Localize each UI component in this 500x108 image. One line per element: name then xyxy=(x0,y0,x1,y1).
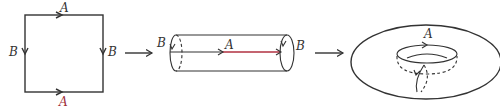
square-top-label: A xyxy=(59,1,69,15)
left-rim-arrow-icon xyxy=(170,44,175,49)
square-right-label: B xyxy=(107,45,117,59)
torus-top-label: A xyxy=(423,27,433,41)
torus-stage: A xyxy=(351,25,500,99)
square-bottom-label: A xyxy=(58,95,68,108)
cylinder-right-label: B xyxy=(295,39,305,53)
square-left-label: B xyxy=(8,45,18,59)
torus-hole-inner-lip xyxy=(407,54,447,58)
square-to-torus-diagram: A A B B B A B xyxy=(0,0,500,108)
cylinder-middle-label: A xyxy=(224,38,234,52)
right-rim-arrow-icon xyxy=(281,41,286,46)
square-stage: A A B B xyxy=(8,1,117,108)
cylinder-left-label: B xyxy=(156,36,166,50)
torus-meridian-front xyxy=(416,65,424,92)
square-outline xyxy=(25,15,103,92)
cylinder-left-rim-front xyxy=(170,35,176,71)
cylinder-right-rim xyxy=(280,35,294,71)
cylinder-left-rim-back xyxy=(176,35,182,71)
cylinder-stage: B A B xyxy=(156,35,305,71)
